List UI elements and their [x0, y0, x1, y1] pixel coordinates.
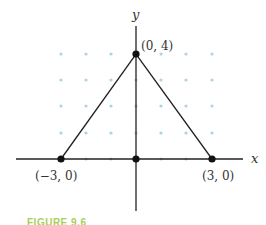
point-origin — [132, 155, 139, 162]
point-3-0 — [208, 155, 215, 162]
label-3-0: (3, 0) — [202, 169, 234, 183]
x-axis-label: x — [251, 151, 259, 166]
point-neg3-0 — [57, 155, 64, 162]
label-neg3-0: (−3, 0) — [35, 169, 77, 183]
label-0-4: (0, 4) — [141, 39, 173, 53]
figure-caption: FIGURE 9.6 — [27, 217, 86, 225]
y-axis-label: y — [131, 7, 140, 22]
point-0-4 — [132, 50, 139, 57]
coordinate-diagram: y x (0, 4) (−3, 0) (3, 0) — [0, 0, 266, 225]
